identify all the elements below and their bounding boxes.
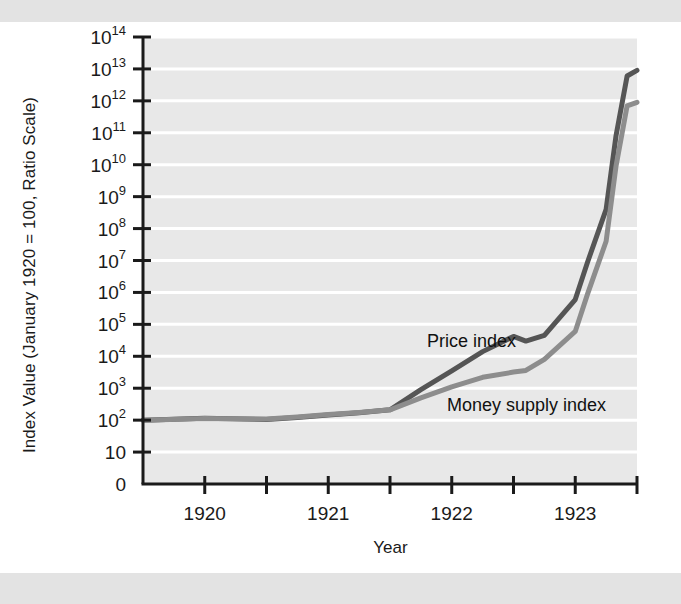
y-tick-label: 1010 [90, 151, 126, 176]
y-tick-base: 10 [98, 378, 119, 399]
y-tick-exponent: 6 [119, 278, 126, 293]
y-tick-label: 104 [98, 342, 126, 367]
y-tick-base: 10 [98, 187, 119, 208]
series-annotation-1: Price index [427, 331, 516, 351]
y-tick-label: 1011 [91, 119, 126, 144]
y-tick-base: 10 [98, 251, 119, 272]
y-tick-label: 109 [98, 183, 126, 208]
y-tick-exponent: 9 [119, 183, 126, 198]
y-tick-label: 1014 [90, 23, 126, 48]
y-tick-exponent: 11 [113, 119, 127, 134]
y-tick-exponent: 10 [112, 151, 126, 166]
y-tick-exponent: 8 [119, 215, 126, 230]
x-axis-title: Year [143, 538, 638, 558]
y-tick-label: 102 [98, 406, 126, 431]
y-tick-exponent: 3 [119, 374, 126, 389]
y-tick-base: 10 [90, 155, 111, 176]
series-annotation-2: Money supply index [447, 395, 606, 415]
y-tick-base: 10 [90, 59, 111, 80]
y-tick-label: 106 [98, 278, 126, 303]
x-tick-label: 1923 [554, 503, 596, 524]
y-tick-label: 0 [115, 474, 126, 495]
y-tick-base: 10 [98, 219, 119, 240]
x-tick-label: 1920 [184, 503, 226, 524]
y-tick-exponent: 5 [119, 310, 126, 325]
y-tick-exponent: 2 [119, 406, 126, 421]
x-axis-tick-labels: 1920192119221923 [184, 503, 597, 524]
y-tick-label: 1012 [90, 87, 126, 112]
y-tick-exponent: 13 [112, 55, 126, 70]
chart-figure: 0101021031041051061071081091010101110121… [0, 0, 681, 604]
y-tick-base: 0 [115, 474, 126, 495]
y-tick-label: 103 [98, 374, 126, 399]
y-tick-exponent: 14 [112, 23, 126, 38]
y-tick-label: 10 [105, 442, 126, 463]
y-tick-base: 10 [90, 91, 111, 112]
hyperinflation-line-chart: 0101021031041051061071081091010101110121… [0, 0, 681, 604]
y-axis-title: Index Value (January 1920 = 100, Ratio S… [20, 55, 40, 495]
y-axis-tick-labels: 0101021031041051061071081091010101110121… [90, 23, 126, 495]
y-tick-label: 105 [98, 310, 126, 335]
x-tick-label: 1921 [307, 503, 349, 524]
y-tick-base: 10 [105, 442, 126, 463]
y-tick-label: 107 [98, 247, 126, 272]
x-tick-label: 1922 [431, 503, 473, 524]
y-tick-base: 10 [98, 282, 119, 303]
y-tick-label: 108 [98, 215, 126, 240]
y-tick-base: 10 [98, 346, 119, 367]
y-tick-base: 10 [91, 123, 112, 144]
y-tick-base: 10 [90, 27, 111, 48]
y-tick-exponent: 4 [119, 342, 126, 357]
y-tick-exponent: 7 [119, 247, 126, 262]
y-tick-label: 1013 [90, 55, 126, 80]
y-tick-base: 10 [98, 410, 119, 431]
y-tick-exponent: 12 [112, 87, 126, 102]
y-tick-base: 10 [98, 314, 119, 335]
